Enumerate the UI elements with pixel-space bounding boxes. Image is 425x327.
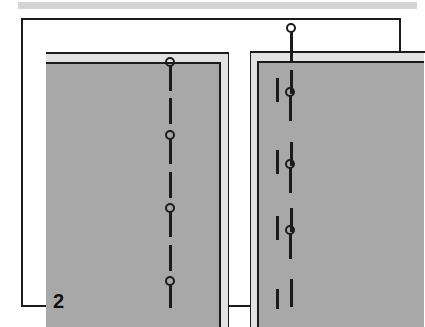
pin-shaft	[169, 211, 172, 237]
figure-frame: 2	[21, 18, 401, 307]
left-fabric-panel	[46, 62, 221, 327]
pin-head-icon	[285, 87, 295, 97]
pin-shaft	[289, 167, 292, 193]
pin-head-icon	[165, 203, 175, 213]
pin-shaft	[290, 31, 293, 61]
pin-shaft	[169, 65, 172, 91]
scan-artifact-bar	[18, 2, 417, 9]
right-panel-top-highlight	[251, 53, 424, 61]
stitch-dash-mark	[276, 78, 279, 102]
stitch-dash-mark	[276, 216, 279, 240]
pin-head-icon	[285, 159, 295, 169]
stitch-dash-mark	[169, 172, 172, 198]
stitch-dash-mark	[276, 289, 279, 309]
pin-head-icon	[165, 130, 175, 140]
pin-shaft	[289, 95, 292, 121]
left-panel-top-highlight	[46, 54, 228, 62]
stitch-dash-mark	[276, 150, 279, 174]
pin-shaft	[169, 138, 172, 164]
right-fabric-panel	[257, 61, 424, 327]
left-panel-fold-highlight	[221, 54, 228, 327]
stitch-dash-mark	[169, 98, 172, 124]
figure-number-label: 2	[53, 291, 64, 311]
pin-head-icon	[286, 23, 296, 33]
pin-head-icon	[165, 276, 175, 286]
pin-shaft	[169, 284, 172, 308]
pin-shaft	[289, 233, 292, 259]
stitch-dash-mark	[169, 245, 172, 271]
pin-head-icon	[285, 225, 295, 235]
stitch-dash-mark	[290, 279, 293, 307]
pin-head-icon	[165, 57, 175, 67]
